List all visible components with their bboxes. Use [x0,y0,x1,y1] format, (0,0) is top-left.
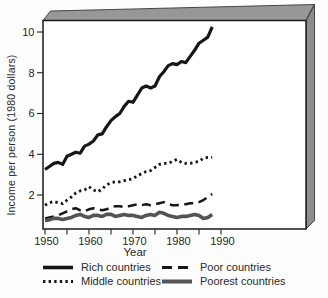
svg-text:4: 4 [28,148,34,160]
svg-text:6: 6 [28,107,34,119]
svg-text:2: 2 [28,189,34,201]
legend-label-poorest: Poorest countries [200,275,286,287]
legend-label-rich: Rich countries [81,261,151,273]
legend-item-poor-countries: Poor countries [160,261,271,273]
legend-swatch-rich-line [41,263,75,272]
chart-figure: 19501960197019801990246810 Income per pe… [0,0,328,298]
legend-item-rich-countries: Rich countries [41,261,151,273]
y-axis-title: Income per person (1980 dollars) [5,54,17,215]
svg-text:1990: 1990 [210,235,234,247]
svg-text:1950: 1950 [34,235,58,247]
legend-swatch-poor-dashed-line [160,263,194,272]
svg-text:10: 10 [22,26,34,38]
legend-label-middle: Middle countries [81,275,161,287]
legend-swatch-poorest-gray-line [160,277,194,286]
legend-label-poor: Poor countries [200,261,271,273]
legend-swatch-middle-dotted-line [41,277,75,286]
x-axis-title: Year [95,246,175,258]
legend-item-middle-countries: Middle countries [41,275,161,287]
legend-item-poorest-countries: Poorest countries [160,275,286,287]
svg-text:8: 8 [28,67,34,79]
